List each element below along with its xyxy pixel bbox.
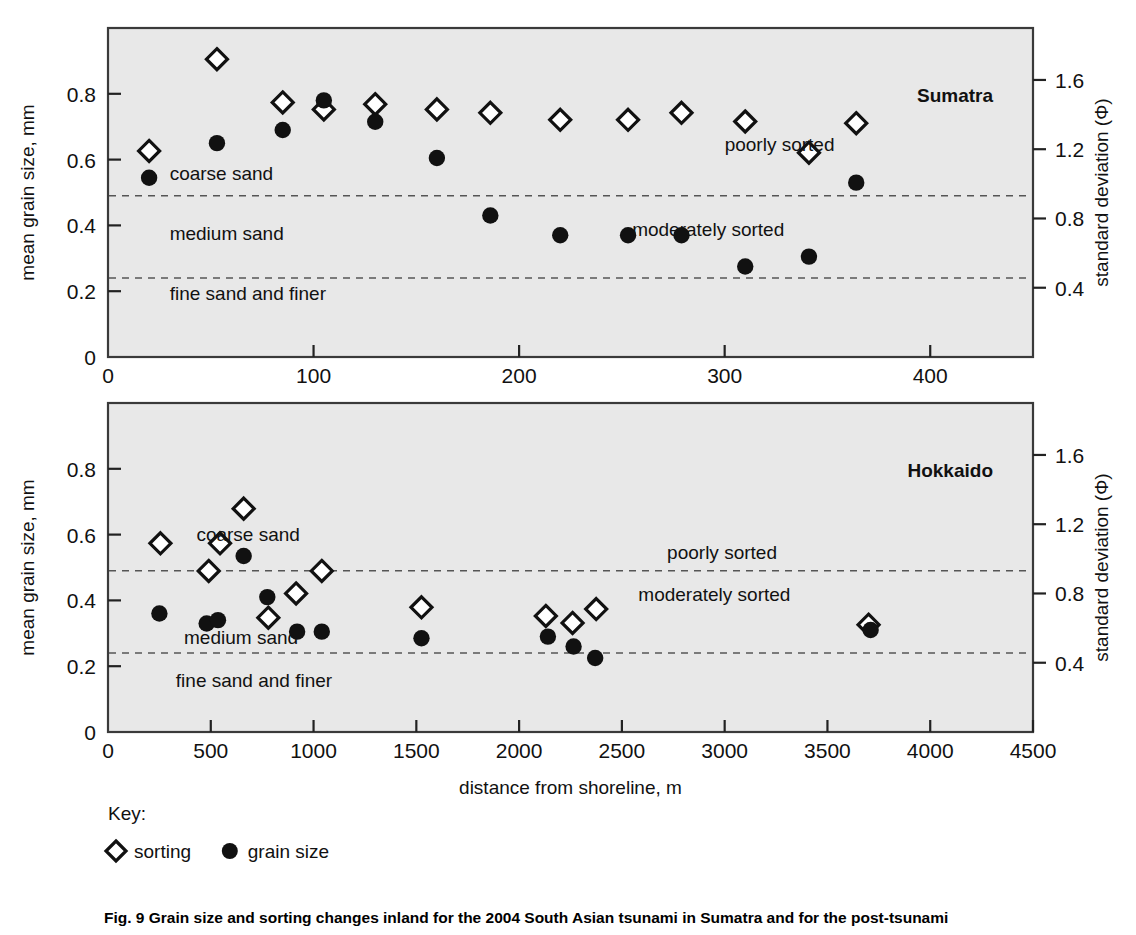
y-left-axis-title: mean grain size, mm [17, 479, 38, 655]
x-tick-label-1: 500 [193, 739, 228, 762]
data-point-grain-size [209, 135, 225, 151]
figure-caption: Fig. 9 Grain size and sorting changes in… [104, 908, 1128, 928]
data-point-grain-size [316, 92, 332, 108]
x-tick-label-2: 1000 [290, 739, 337, 762]
key-item-sorting [106, 841, 126, 861]
x-tick-label-7: 3500 [804, 739, 851, 762]
data-point-grain-size [275, 122, 291, 138]
data-point-grain-size [314, 623, 330, 639]
data-point-grain-size [565, 638, 581, 654]
annotation-fine-sand-and-finer: fine sand and finer [170, 283, 327, 304]
data-point-grain-size [259, 589, 275, 605]
data-point-grain-size [413, 630, 429, 646]
y-right-axis-title: standard deviation (Φ) [1091, 98, 1112, 286]
x-tick-label-5: 2500 [599, 739, 646, 762]
x-tick-label-3: 300 [707, 364, 742, 387]
key-label-sorting: sorting [134, 841, 191, 862]
x-tick-label-4: 400 [913, 364, 948, 387]
key-label-grain-size: grain size [248, 841, 329, 862]
data-point-grain-size [151, 605, 167, 621]
annotation-poorly-sorted: poorly sorted [667, 542, 777, 563]
y-left-tick-label-0: 0 [84, 721, 96, 744]
y-right-tick-label-1: 0.8 [1055, 582, 1084, 605]
key-item-grain-size [222, 843, 238, 859]
y-right-tick-label-2: 1.2 [1055, 513, 1084, 536]
x-tick-label-4: 2000 [496, 739, 543, 762]
y-left-tick-label-1: 0.2 [67, 280, 96, 303]
data-point-grain-size [540, 628, 556, 644]
figure-root: 00.20.40.60.80.40.81.21.60100200300400me… [0, 0, 1136, 935]
annotation-medium-sand: medium sand [184, 627, 298, 648]
x-tick-label-3: 1500 [393, 739, 440, 762]
y-left-tick-label-3: 0.6 [67, 149, 96, 172]
y-right-tick-label-2: 1.2 [1055, 138, 1084, 161]
chart-panel-sumatra [108, 28, 1046, 357]
data-point-grain-size [801, 248, 817, 264]
data-point-grain-size [587, 650, 603, 666]
grain-size-sorting-figure: 00.20.40.60.80.40.81.21.60100200300400me… [0, 0, 1136, 900]
key-title: Key: [108, 803, 146, 824]
y-right-tick-label-3: 1.6 [1055, 444, 1084, 467]
y-left-tick-label-4: 0.8 [67, 83, 96, 106]
annotation-coarse-sand: coarse sand [170, 163, 274, 184]
data-point-grain-size [482, 207, 498, 223]
plot-area-background [108, 28, 1033, 357]
annotation-moderately-sorted: moderately sorted [638, 584, 790, 605]
data-point-grain-size [210, 612, 226, 628]
data-point-grain-size [848, 174, 864, 190]
x-tick-label-0: 0 [102, 364, 114, 387]
annotation-poorly-sorted: poorly sorted [725, 134, 835, 155]
data-point-grain-size [367, 114, 383, 130]
y-left-axis-title: mean grain size, mm [17, 104, 38, 280]
y-right-tick-label-0: 0.4 [1055, 652, 1085, 675]
y-right-tick-label-0: 0.4 [1055, 277, 1085, 300]
data-point-grain-size [552, 227, 568, 243]
panel-label-sumatra: Sumatra [917, 85, 993, 106]
y-left-tick-label-2: 0.4 [67, 214, 97, 237]
x-tick-label-2: 200 [502, 364, 537, 387]
panel-label-hokkaido: Hokkaido [907, 460, 993, 481]
key-marker-sorting-icon [106, 841, 126, 861]
y-right-tick-label-3: 1.6 [1055, 69, 1084, 92]
annotation-fine-sand-and-finer: fine sand and finer [176, 670, 333, 691]
annotation-moderately-sorted: moderately sorted [632, 219, 784, 240]
key-marker-grain-size-icon [222, 843, 238, 859]
data-point-grain-size [141, 169, 157, 185]
y-left-tick-label-3: 0.6 [67, 524, 96, 547]
data-point-grain-size [862, 622, 878, 638]
data-point-grain-size [737, 258, 753, 274]
x-tick-label-1: 100 [296, 364, 331, 387]
annotation-medium-sand: medium sand [170, 223, 284, 244]
x-tick-label-6: 3000 [701, 739, 748, 762]
x-tick-label-9: 4500 [1010, 739, 1057, 762]
y-left-tick-label-2: 0.4 [67, 589, 97, 612]
y-right-axis-title: standard deviation (Φ) [1091, 473, 1112, 661]
x-tick-label-8: 4000 [907, 739, 954, 762]
x-axis-title: distance from shoreline, m [459, 777, 682, 798]
data-point-grain-size [235, 548, 251, 564]
data-point-grain-size [429, 150, 445, 166]
figure-caption-wrapper: Fig. 9 Grain size and sorting changes in… [104, 908, 1128, 935]
y-right-tick-label-1: 0.8 [1055, 207, 1084, 230]
y-left-tick-label-0: 0 [84, 346, 96, 369]
y-left-tick-label-1: 0.2 [67, 655, 96, 678]
y-left-tick-label-4: 0.8 [67, 458, 96, 481]
x-tick-label-0: 0 [102, 739, 114, 762]
annotation-coarse-sand: coarse sand [196, 524, 300, 545]
